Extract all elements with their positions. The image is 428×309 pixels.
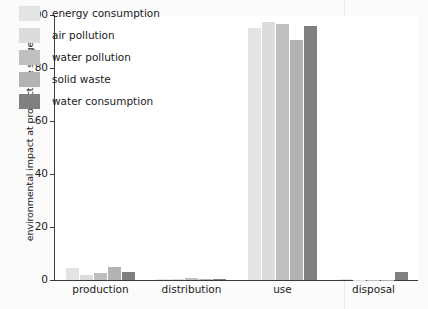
bar-use-water-pollution[interactable] <box>276 24 289 280</box>
legend-swatch-icon <box>19 6 40 21</box>
bar-disposal-water-pollution[interactable] <box>367 280 380 281</box>
legend-item-solid-waste[interactable]: solid waste <box>19 68 160 90</box>
y-tick-label: 60 <box>21 114 48 126</box>
y-tick-label: 40 <box>21 167 48 179</box>
bar-use-water-consumption[interactable] <box>304 26 317 280</box>
bar-production-solid-waste[interactable] <box>108 267 121 280</box>
bar-chart: environmental impact at product life sta… <box>0 0 428 309</box>
bar-production-water-pollution[interactable] <box>94 273 107 280</box>
bar-disposal-solid-waste[interactable] <box>381 280 394 281</box>
bar-production-energy-consumption[interactable] <box>66 268 79 280</box>
legend-item-water-pollution[interactable]: water pollution <box>19 46 160 68</box>
tick-mark <box>50 227 55 228</box>
legend-swatch-icon <box>19 28 40 43</box>
y-tick-label: 20 <box>21 220 48 232</box>
bar-group-distribution <box>157 16 227 280</box>
bar-production-air-pollution[interactable] <box>80 275 93 280</box>
x-axis-label-distribution: distribution <box>146 283 237 295</box>
bar-distribution-water-consumption[interactable] <box>213 279 226 280</box>
legend-label: energy consumption <box>52 7 160 19</box>
bar-distribution-air-pollution[interactable] <box>171 279 184 280</box>
legend-label: water pollution <box>52 51 131 63</box>
x-axis-label-use: use <box>237 283 328 295</box>
bar-use-air-pollution[interactable] <box>262 22 275 280</box>
bar-distribution-solid-waste[interactable] <box>199 279 212 280</box>
legend-label: air pollution <box>52 29 115 41</box>
bar-use-solid-waste[interactable] <box>290 40 303 280</box>
legend-swatch-icon <box>19 72 40 87</box>
legend-label: water consumption <box>52 95 153 107</box>
legend-item-air-pollution[interactable]: air pollution <box>19 24 160 46</box>
legend: energy consumptionair pollutionwater pol… <box>19 2 160 112</box>
bar-group-disposal <box>339 16 409 280</box>
tick-mark <box>50 174 55 175</box>
bar-use-energy-consumption[interactable] <box>248 28 261 280</box>
tick-mark <box>50 280 55 281</box>
bar-distribution-energy-consumption[interactable] <box>157 279 170 280</box>
bar-group-use <box>248 16 318 280</box>
bar-disposal-water-consumption[interactable] <box>395 272 408 280</box>
bar-distribution-water-pollution[interactable] <box>185 278 198 280</box>
x-axis-label-disposal: disposal <box>328 283 419 295</box>
legend-item-water-consumption[interactable]: water consumption <box>19 90 160 112</box>
legend-swatch-icon <box>19 50 40 65</box>
tick-mark <box>50 121 55 122</box>
legend-label: solid waste <box>52 73 111 85</box>
y-tick-label: 0 <box>21 273 48 285</box>
bar-disposal-energy-consumption[interactable] <box>339 279 352 280</box>
legend-item-energy-consumption[interactable]: energy consumption <box>19 2 160 24</box>
x-axis-label-production: production <box>55 283 146 295</box>
bar-production-water-consumption[interactable] <box>122 272 135 280</box>
legend-swatch-icon <box>19 94 40 109</box>
bar-disposal-air-pollution[interactable] <box>353 280 366 281</box>
